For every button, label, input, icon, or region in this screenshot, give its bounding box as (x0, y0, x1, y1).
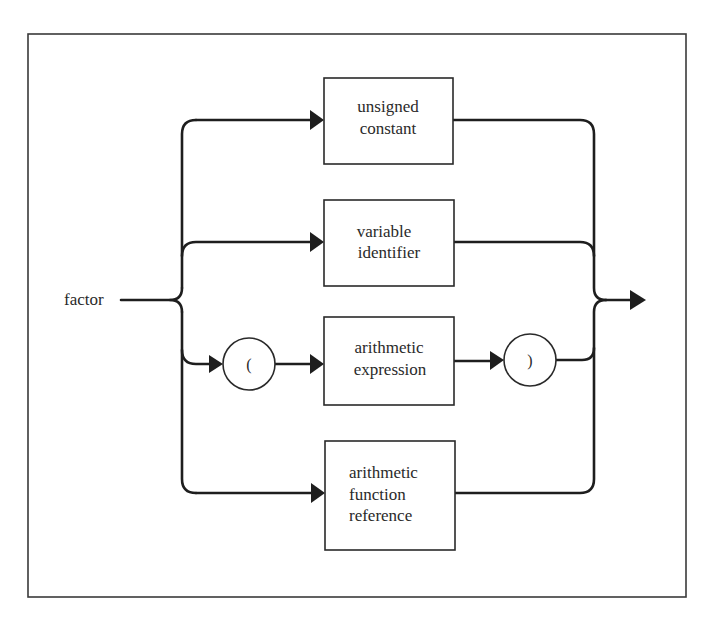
terminal-symbol: ) (527, 352, 532, 370)
split-down (170, 300, 182, 312)
branch-4-out (455, 300, 606, 493)
left-trunk-lower (182, 312, 196, 493)
box-label-line: expression (354, 360, 427, 379)
nonterminal-arithmetic-function-reference: arithmetic function reference (325, 441, 455, 550)
box-label-line: constant (360, 119, 417, 138)
terminal-symbol: ( (246, 356, 251, 374)
box-label-line: variable (357, 222, 412, 241)
arrow-icon (310, 354, 324, 374)
branch-1-out (453, 120, 606, 300)
branch-3-out (556, 348, 594, 360)
branch-2-out (453, 242, 594, 256)
terminal-close-paren: ) (504, 334, 556, 386)
nonterminal-unsigned-constant: unsigned constant (324, 78, 453, 164)
arrow-icon (209, 355, 223, 373)
terminal-open-paren: ( (223, 338, 275, 390)
branch-2-in (182, 242, 312, 256)
nonterminal-arithmetic-expression: arithmetic expression (324, 317, 454, 405)
nonterminal-variable-identifier: variable identifier (324, 200, 454, 286)
exit-arrow-icon (630, 290, 646, 310)
branch-3-in (182, 350, 210, 364)
box-label-line: arithmetic (355, 338, 424, 357)
arrow-icon (310, 232, 324, 252)
entry-line (121, 288, 182, 300)
syntax-diagram-factor: factor unsigned constant variable identi… (0, 0, 709, 619)
box-label-line: function (349, 485, 406, 504)
arrow-icon (490, 351, 504, 370)
box-label-line: unsigned (357, 97, 419, 116)
left-trunk (182, 120, 196, 288)
arrow-icon (311, 483, 325, 503)
arrow-icon (310, 110, 324, 130)
box-label-line: reference (349, 506, 412, 525)
box-label-line: identifier (358, 243, 421, 262)
entry-label: factor (64, 290, 104, 309)
box-label-line: arithmetic (349, 463, 418, 482)
